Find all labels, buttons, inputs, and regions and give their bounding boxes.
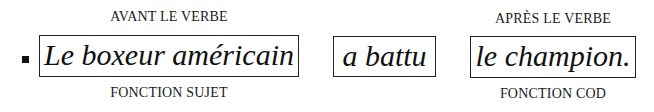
verb-group-box: a battu — [333, 36, 436, 77]
label-avant-le-verbe: AVANT LE VERBE — [89, 9, 249, 25]
label-fonction-sujet: FONCTION SUJET — [89, 85, 249, 101]
subject-group-box: Le boxeur américain — [39, 35, 299, 77]
square-bullet-icon — [22, 56, 29, 63]
object-group-box: le champion. — [470, 36, 636, 78]
label-apres-le-verbe: APRÈS LE VERBE — [472, 11, 634, 27]
label-fonction-cod: FONCTION COD — [472, 86, 634, 102]
